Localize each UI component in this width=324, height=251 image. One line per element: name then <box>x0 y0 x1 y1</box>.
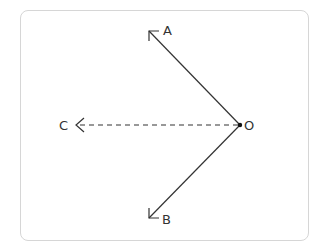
vector-diagram: A B C O <box>0 0 324 251</box>
label-c: C <box>59 118 68 133</box>
label-o: O <box>244 118 254 133</box>
ray-oa <box>149 31 240 125</box>
ray-ob <box>149 125 240 218</box>
label-a: A <box>163 23 172 38</box>
ray-oc <box>76 118 238 132</box>
label-b: B <box>162 212 171 227</box>
origin-point <box>238 123 242 127</box>
